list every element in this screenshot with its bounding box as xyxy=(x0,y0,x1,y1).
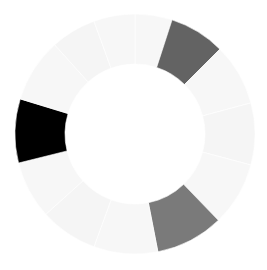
donut-chart xyxy=(0,0,267,270)
